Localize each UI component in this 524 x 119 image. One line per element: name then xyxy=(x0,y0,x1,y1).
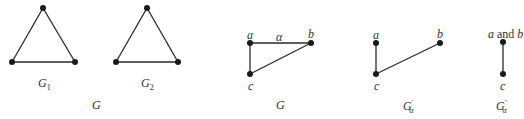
vertex xyxy=(72,59,78,65)
edge xyxy=(116,8,147,62)
graph-figure xyxy=(0,0,524,119)
graph-label-g1: G1 xyxy=(38,77,51,92)
graph-caption-g: G xyxy=(276,99,285,111)
vertex-label-a: a xyxy=(247,29,253,41)
edge-label-alpha: α xyxy=(276,31,282,43)
edge xyxy=(43,8,75,62)
edge xyxy=(12,8,43,62)
vertex-label-c: c xyxy=(248,80,253,92)
vertex-label-b: b xyxy=(308,28,314,40)
vertex xyxy=(40,5,46,11)
panel-caption-g: G xyxy=(92,99,101,111)
vertex-label-a-and-b: a and b xyxy=(488,28,523,40)
edge xyxy=(147,8,178,62)
vertex-c xyxy=(500,71,506,77)
vertex-c xyxy=(247,71,253,77)
edge xyxy=(376,43,440,74)
vertex-label-b: b xyxy=(437,28,443,40)
vertex-label-a: a xyxy=(373,29,379,41)
edge xyxy=(250,43,311,74)
vertex xyxy=(113,59,119,65)
vertex xyxy=(144,5,150,11)
graph-caption-g-double-prime-alpha: G″α xyxy=(496,99,507,115)
vertex xyxy=(9,59,15,65)
vertex-label-c: c xyxy=(500,80,505,92)
vertex xyxy=(175,59,181,65)
vertex-label-c: c xyxy=(374,80,379,92)
vertex-c xyxy=(373,71,379,77)
graph-caption-g-prime-alpha: G′α xyxy=(403,99,413,115)
graph-label-g2: G2 xyxy=(141,77,154,92)
